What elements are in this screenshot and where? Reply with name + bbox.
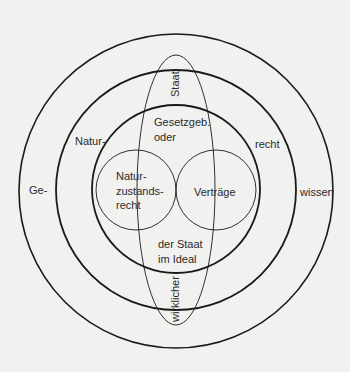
ellipse-top-label: Staat xyxy=(169,71,181,97)
middle-ring-left-label: Natur- xyxy=(75,135,106,147)
outer-ring-right-label: wissen xyxy=(299,186,334,198)
ellipse-bottom-label: wirklicher xyxy=(169,276,181,323)
middle-ring-right-label: recht xyxy=(255,138,279,150)
outer-ring-left-label: Ge- xyxy=(29,184,48,196)
left-circle-label-3: recht xyxy=(116,199,140,211)
inner-ring-top-label-1: Gesetzgeb. xyxy=(154,116,210,128)
right-circle-label: Verträge xyxy=(194,186,236,198)
inner-ring-bottom-label-2: im Ideal xyxy=(158,253,197,265)
inner-ring-top-label-2: oder xyxy=(154,131,176,143)
left-circle-label-1: Natur- xyxy=(116,170,147,182)
inner-ring-bottom-label-1: der Staat xyxy=(158,238,203,250)
political-philosophy-diagram: Ge- wissen Natur- recht Gesetzgeb. oder … xyxy=(0,0,350,372)
left-circle-label-2: zustands- xyxy=(116,185,164,197)
